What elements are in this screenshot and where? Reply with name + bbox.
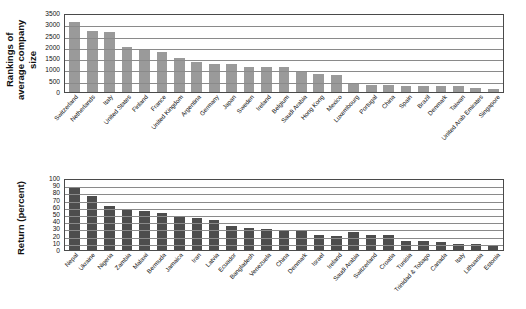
chart1-y-tick: 0 <box>56 90 60 97</box>
chart1-y-tick: 500 <box>49 78 60 85</box>
gridline <box>65 60 503 61</box>
bar <box>366 85 377 92</box>
chart1-y-tick: 1000 <box>45 67 60 74</box>
gridline <box>65 209 503 210</box>
chart1-x-tick-labels: SwitzerlandNetherlandsItalyUnited States… <box>64 96 504 150</box>
bar-slot <box>171 180 188 250</box>
chart2-y-tick: 10 <box>53 241 60 248</box>
chart2-y-tick-labels: 0102030405060708090100 <box>38 179 62 251</box>
bar-slot <box>328 180 345 250</box>
bar-slot <box>467 180 484 250</box>
chart1-y-tick: 3500 <box>45 11 60 18</box>
bar-slot <box>101 180 118 250</box>
bar <box>209 64 220 92</box>
bar <box>244 228 254 250</box>
bar <box>174 58 185 92</box>
bar-slot <box>380 180 397 250</box>
gridline <box>65 223 503 224</box>
bar-slot <box>136 180 153 250</box>
bar-slot <box>188 180 205 250</box>
chart1-y-tick: 1500 <box>45 56 60 63</box>
bar-slot <box>118 180 135 250</box>
chart2-y-tick: 60 <box>53 205 60 212</box>
chart2-x-tick: Canada <box>432 254 451 274</box>
bar <box>279 230 289 250</box>
bar <box>488 89 499 92</box>
chart2-x-tick: Nigeria <box>99 254 117 273</box>
chart1-y-tick: 2500 <box>45 33 60 40</box>
gridline <box>65 230 503 231</box>
bar <box>418 86 429 92</box>
bar <box>296 230 306 250</box>
chart2-x-tick: Iran <box>193 254 205 266</box>
gridline <box>65 216 503 217</box>
bar-slot <box>415 180 432 250</box>
bar-slot <box>240 180 257 250</box>
bar-slot <box>66 180 83 250</box>
chart2-y-tick: 70 <box>53 197 60 204</box>
bar-slot <box>345 180 362 250</box>
gridline <box>65 83 503 84</box>
chart1-x-tick: China <box>383 96 398 112</box>
bar <box>104 206 114 250</box>
chart2-y-tick: 30 <box>53 226 60 233</box>
bar <box>122 47 133 92</box>
bar <box>436 242 446 250</box>
chart-page: Rankings of average company size 0500100… <box>0 0 526 309</box>
bar <box>261 229 271 250</box>
chart2-y-tick: 50 <box>53 212 60 219</box>
chart1-y-tick-labels: 0500100015002000250030003500 <box>38 14 62 93</box>
bar <box>383 85 394 92</box>
chart2-x-tick: Jamaica <box>167 254 187 275</box>
bar-slot <box>258 180 275 250</box>
bar-slot <box>275 180 292 250</box>
bar-slot <box>397 180 414 250</box>
chart2-y-axis-title: Return (percent) <box>4 177 38 259</box>
bar <box>401 86 412 92</box>
gridline <box>65 187 503 188</box>
gridline <box>65 238 503 239</box>
bar <box>191 62 202 92</box>
chart1-plot <box>64 14 504 93</box>
bar <box>69 22 80 92</box>
gridline <box>65 49 503 50</box>
bar-slot <box>153 180 170 250</box>
bar <box>348 83 359 92</box>
chart1-y-tick: 3000 <box>45 22 60 29</box>
chart2-y-tick: 0 <box>56 248 60 255</box>
chart2-x-tick-labels: NepalUkraineNigeriaZambiaMalawiBermudaJa… <box>64 254 504 308</box>
bar-slot <box>293 180 310 250</box>
bar <box>226 64 237 92</box>
gridline <box>65 202 503 203</box>
chart2-x-tick: Israel <box>313 254 328 269</box>
bar-slot <box>485 180 502 250</box>
chart1-y-axis-title: Rankings of average company size <box>4 14 38 106</box>
bar-slot <box>362 180 379 250</box>
bar-slot <box>83 180 100 250</box>
gridline <box>65 245 503 246</box>
chart2-y-tick: 80 <box>53 190 60 197</box>
bar-slot <box>310 180 327 250</box>
chart1-x-tick: Portugal <box>361 96 381 117</box>
gridline <box>65 26 503 27</box>
bar-slot <box>432 180 449 250</box>
bar-slot <box>223 180 240 250</box>
chart-return-percent: Return (percent) 0102030405060708090100 … <box>0 155 526 309</box>
bar <box>453 86 464 92</box>
gridline <box>65 194 503 195</box>
bar <box>69 188 79 250</box>
bar-slot <box>450 180 467 250</box>
chart2-y-tick: 90 <box>53 183 60 190</box>
chart2-y-tick: 100 <box>49 176 60 183</box>
chart2-bars <box>65 180 503 250</box>
chart2-y-tick: 20 <box>53 233 60 240</box>
gridline <box>65 71 503 72</box>
gridline <box>65 38 503 39</box>
bar <box>470 88 481 92</box>
chart2-x-tick: Estonia <box>485 254 503 273</box>
bar <box>436 86 447 92</box>
bar-slot <box>206 180 223 250</box>
chart1-y-tick: 2000 <box>45 45 60 52</box>
chart1-x-tick: Spain <box>401 96 416 112</box>
chart-rankings-average-company-size: Rankings of average company size 0500100… <box>0 0 526 155</box>
